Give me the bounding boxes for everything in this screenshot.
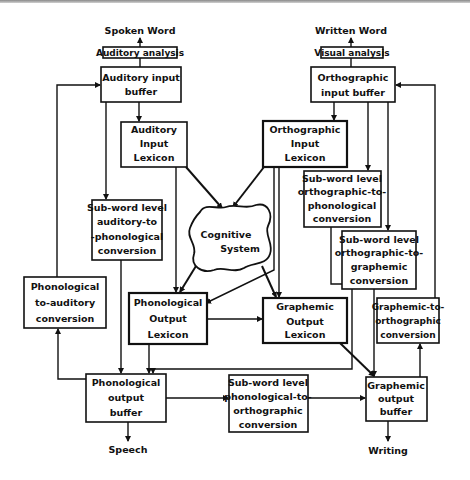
box-line: Sub-word level bbox=[302, 173, 382, 184]
box-line: Input bbox=[291, 138, 320, 149]
spoken-word-label: Spoken Word bbox=[105, 25, 176, 36]
box-phonological-output-buffer: Phonological output buffer bbox=[86, 374, 166, 422]
box-line: Output bbox=[286, 316, 324, 327]
visual-analysis-label: Visual analysis bbox=[314, 48, 389, 58]
speech-label: Speech bbox=[109, 444, 148, 455]
box-phonological-to-auditory: Phonological to-auditory conversion bbox=[24, 277, 106, 328]
box-auditory-analysis: Auditory analysis bbox=[96, 47, 184, 58]
box-graphemic-output-buffer: Graphemic output buffer bbox=[366, 377, 427, 421]
box-line: Sub-word level bbox=[87, 202, 167, 213]
box-line: input buffer bbox=[321, 87, 385, 98]
box-orthographic-input-buffer: Orthographic input buffer bbox=[311, 67, 395, 102]
box-line: Lexicon bbox=[285, 152, 326, 163]
writing-label: Writing bbox=[368, 445, 408, 456]
box-line: buffer bbox=[380, 406, 413, 417]
box-phonological-output-lexicon: Phonological Output Lexicon bbox=[129, 293, 207, 344]
auditory-analysis-label: Auditory analysis bbox=[96, 48, 184, 58]
box-line: Sub-word level bbox=[339, 234, 419, 245]
box-orthographic-input-lexicon: Orthographic Input Lexicon bbox=[263, 121, 347, 167]
box-line: graphemic bbox=[351, 261, 408, 272]
box-line: Output bbox=[149, 313, 187, 324]
box-auditory-input-lexicon: Auditory Input Lexicon bbox=[121, 122, 187, 167]
cognitive-system-cloud: Cognitive System bbox=[189, 205, 271, 272]
box-subword-ortho-to-phono: Sub-word level orthographic-to- phonolog… bbox=[298, 171, 386, 227]
box-graphemic-to-orthographic: Graphemic-to- orthographic conversion bbox=[372, 298, 445, 343]
box-line: orthographic-to- bbox=[298, 186, 386, 197]
box-line: Auditory input bbox=[102, 72, 180, 83]
system-label: System bbox=[220, 243, 260, 254]
box-line: phonological bbox=[308, 200, 377, 211]
box-line: Sub-word level bbox=[228, 377, 308, 388]
box-line: conversion bbox=[350, 275, 409, 286]
box-line: Phonological bbox=[134, 297, 203, 308]
box-line: buffer bbox=[125, 86, 158, 97]
box-line: to-auditory bbox=[35, 297, 96, 308]
box-line: Auditory bbox=[131, 124, 178, 135]
box-line: Orthographic bbox=[318, 72, 389, 83]
box-line: Lexicon bbox=[134, 152, 175, 163]
box-line: Lexicon bbox=[148, 329, 189, 340]
box-line: Graphemic-to- bbox=[372, 302, 445, 312]
box-line: Graphemic bbox=[367, 380, 425, 391]
box-visual-analysis: Visual analysis bbox=[314, 47, 389, 58]
box-line: conversion bbox=[36, 313, 95, 324]
box-subword-ortho-to-graphemic: Sub-word level orthographic-to- graphemi… bbox=[335, 231, 423, 289]
box-line: buffer bbox=[110, 407, 143, 418]
box-line: Phonological bbox=[92, 377, 161, 388]
box-subword-auditory-to-phono: Sub-word level auditory-to -phonological… bbox=[87, 200, 167, 260]
box-line: conversion bbox=[380, 330, 435, 340]
box-graphemic-output-lexicon: Graphemic Output Lexicon bbox=[263, 298, 347, 343]
box-line: Orthographic bbox=[270, 124, 341, 135]
cognitive-label: Cognitive bbox=[201, 229, 252, 240]
box-line: -phonological bbox=[91, 231, 163, 242]
language-processing-diagram: Spoken Word Written Word Speech Writing … bbox=[0, 0, 470, 480]
box-line: Input bbox=[140, 138, 169, 149]
box-line: orthographic bbox=[375, 316, 441, 326]
box-line: output bbox=[378, 393, 414, 404]
box-line: phonological-to- bbox=[224, 391, 312, 402]
box-line: auditory-to bbox=[97, 216, 158, 227]
box-line: Phonological bbox=[31, 281, 100, 292]
box-line: conversion bbox=[239, 419, 298, 430]
written-word-label: Written Word bbox=[315, 25, 387, 36]
box-line: orthographic-to- bbox=[335, 247, 423, 258]
box-line: conversion bbox=[313, 213, 372, 224]
box-line: conversion bbox=[98, 245, 157, 256]
box-subword-phono-to-ortho: Sub-word level phonological-to- orthogra… bbox=[224, 375, 312, 432]
box-line: orthographic bbox=[233, 405, 302, 416]
box-line: Graphemic bbox=[276, 301, 334, 312]
box-line: output bbox=[108, 392, 144, 403]
box-line: Lexicon bbox=[285, 329, 326, 340]
box-auditory-input-buffer: Auditory input buffer bbox=[101, 67, 181, 102]
